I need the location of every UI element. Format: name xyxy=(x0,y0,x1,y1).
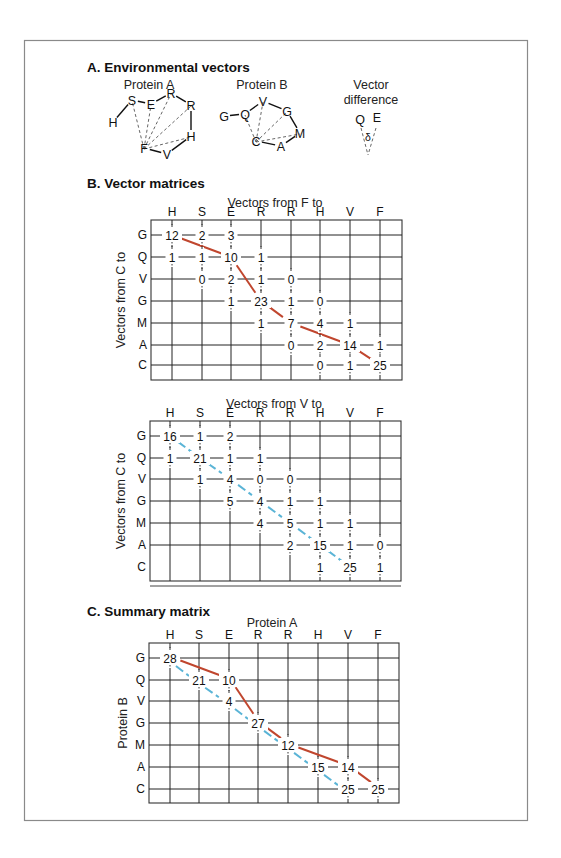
matrix-value: 0 xyxy=(199,273,206,287)
matrix-value: 2 xyxy=(317,339,324,353)
residue-label: M xyxy=(295,127,305,141)
column-label: R xyxy=(256,406,265,420)
backbone-bond xyxy=(138,101,145,103)
matrix-value: 5 xyxy=(287,517,294,531)
row-label: A xyxy=(139,338,147,352)
matrix-value: 1 xyxy=(257,452,264,466)
matrix-value: 5 xyxy=(227,495,234,509)
matrix-value: 1 xyxy=(288,295,295,309)
matrix-value: 1 xyxy=(377,339,384,353)
residue-label: F xyxy=(140,142,148,156)
matrix-value: 1 xyxy=(258,251,265,265)
matrix-value: 1 xyxy=(258,317,265,331)
matrix-value: 7 xyxy=(288,317,295,331)
matrix-value: 1 xyxy=(199,251,206,265)
alignment-path-red xyxy=(358,351,371,360)
residue-label: R xyxy=(186,99,195,113)
protein-b-diagram: GQVGMAC xyxy=(219,95,305,154)
section-b-title: B. Vector matrices xyxy=(87,176,205,191)
residue-label: C xyxy=(251,135,260,149)
column-label: E xyxy=(227,205,235,219)
matrix-v-title: Vectors from V to xyxy=(226,397,322,411)
alignment-path-red xyxy=(269,307,283,317)
matrix-value: 15 xyxy=(313,539,327,553)
backbone-bond xyxy=(117,105,128,118)
matrix-value: 1 xyxy=(197,473,204,487)
matrix-value: 0 xyxy=(257,473,264,487)
matrix-value: 4 xyxy=(227,473,234,487)
column-label: R xyxy=(286,406,295,420)
alignment-path-blue xyxy=(268,507,282,517)
matrix-value: 0 xyxy=(377,539,384,553)
matrix-value: 10 xyxy=(222,674,236,688)
vector-matrix-v: HSERRHVFGQVGMAC1612121111400541145112151… xyxy=(136,406,401,586)
summary-path-blue xyxy=(205,688,219,698)
row-label: M xyxy=(137,316,147,330)
vector-q-label: Q xyxy=(355,113,365,127)
column-label: V xyxy=(344,628,352,642)
matrix-value: 1 xyxy=(227,452,234,466)
matrix-value: 27 xyxy=(251,717,265,731)
matrix-value: 2 xyxy=(228,273,235,287)
row-label: G xyxy=(136,716,145,730)
row-label: C xyxy=(138,358,147,372)
column-label: H xyxy=(314,628,323,642)
row-label: C xyxy=(136,782,145,796)
column-label: V xyxy=(346,406,354,420)
row-label: Q xyxy=(136,673,145,687)
backbone-bond xyxy=(286,136,295,142)
matrix-value: 1 xyxy=(347,317,354,331)
matrix-value: 25 xyxy=(373,359,387,373)
matrix-value: 25 xyxy=(343,561,357,575)
matrix-value: 21 xyxy=(193,452,207,466)
vector-diff-label-2: difference xyxy=(344,93,399,107)
residue-label: V xyxy=(259,95,268,109)
alignment-path-blue xyxy=(238,485,252,495)
matrix-value: 1 xyxy=(228,295,235,309)
summary-path-red xyxy=(357,772,371,782)
row-label: G xyxy=(137,429,146,443)
matrix-value: 10 xyxy=(224,251,238,265)
matrix-value: 12 xyxy=(165,229,179,243)
matrix-value: 21 xyxy=(192,674,206,688)
row-label: V xyxy=(138,472,146,486)
matrix-value: 1 xyxy=(258,273,265,287)
summary-path-blue xyxy=(294,753,308,763)
matrix-value: 1 xyxy=(169,251,176,265)
alignment-path-blue xyxy=(208,464,222,474)
row-label: G xyxy=(136,651,145,665)
vector-e-label: E xyxy=(373,111,381,125)
row-label: G xyxy=(138,228,147,242)
figure-canvas: A. Environmental vectors Protein A Prote… xyxy=(0,0,561,858)
summary-row-axis: Protein B xyxy=(116,697,130,748)
column-label: F xyxy=(376,406,383,420)
residue-label: V xyxy=(163,148,172,162)
backbone-bond xyxy=(156,96,165,101)
row-label: M xyxy=(136,516,146,530)
matrix-value: 4 xyxy=(257,517,264,531)
column-label: R xyxy=(257,205,266,219)
matrix-value: 25 xyxy=(371,783,385,797)
matrix-value: 2 xyxy=(227,430,234,444)
matrix-f-row-axis: Vectors from C to xyxy=(114,252,128,349)
row-label: G xyxy=(138,294,147,308)
matrix-value: 14 xyxy=(343,339,357,353)
column-label: S xyxy=(198,205,206,219)
backbone-bond xyxy=(262,142,275,145)
backbone-bond xyxy=(269,103,282,108)
summary-path-blue xyxy=(235,709,248,719)
section-a-title: A. Environmental vectors xyxy=(87,60,250,75)
row-label: V xyxy=(139,272,147,286)
summary-matrix: HSERRHVFGQVGMAC2821104271215142525 xyxy=(135,628,399,803)
backbone-bond xyxy=(176,96,186,102)
row-label: Q xyxy=(137,451,146,465)
residue-label: G xyxy=(282,105,292,119)
column-label: R xyxy=(287,205,296,219)
row-label: A xyxy=(138,538,146,552)
row-label: Q xyxy=(138,250,147,264)
row-label: M xyxy=(135,738,145,752)
backbone-bond xyxy=(230,115,239,116)
backbone-bond xyxy=(150,150,161,153)
residue-label: S xyxy=(128,94,136,108)
backbone-bond xyxy=(172,140,186,151)
